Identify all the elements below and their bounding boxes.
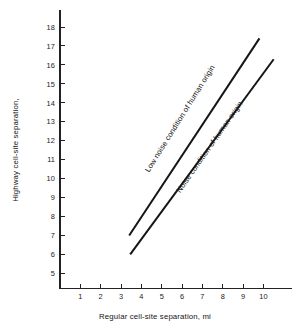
y-tick-label: 10 (47, 174, 55, 183)
y-tick-label: 16 (47, 61, 55, 70)
y-tick-label: 5 (51, 269, 55, 278)
x-tick-label: 1 (78, 292, 82, 301)
y-axis-title: Highway cell-site separation, (11, 98, 20, 202)
x-tick-label: 9 (241, 292, 245, 301)
y-tick-label: 11 (47, 155, 55, 164)
x-tick-label: 3 (119, 292, 123, 301)
x-tick-label: 7 (200, 292, 204, 301)
x-axis-title: Regular cell-site separation, mi (99, 312, 211, 321)
y-tick-label: 14 (47, 99, 55, 108)
x-tick-label: 4 (139, 292, 143, 301)
y-tick-label: 15 (47, 80, 55, 89)
y-tick-label: 18 (47, 23, 55, 32)
y-tick-label: 7 (51, 231, 55, 240)
y-tick-label: 9 (51, 193, 55, 202)
x-tick-label: 6 (180, 292, 184, 301)
y-tick-label: 8 (51, 212, 55, 221)
y-tick-label: 17 (47, 42, 55, 51)
chart-figure: 56789101112131415161718 Highway cell-sit… (0, 0, 303, 332)
x-tick-label: 2 (99, 292, 103, 301)
y-tick-label: 12 (47, 136, 55, 145)
x-tick-label: 8 (221, 292, 225, 301)
x-tick-label: 5 (160, 292, 164, 301)
x-tick-label: 10 (259, 292, 267, 301)
y-tick-label: 6 (51, 250, 55, 259)
y-tick-label: 13 (47, 117, 55, 126)
